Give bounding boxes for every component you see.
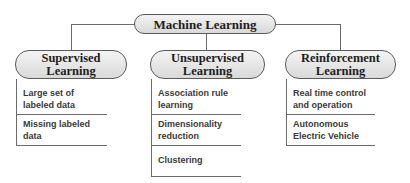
category-label-line2: Learning xyxy=(301,65,380,78)
category-unsupervised: Unsupervised Learning xyxy=(150,50,265,79)
list-item: Clustering xyxy=(152,146,241,177)
connector-root-right xyxy=(276,24,341,25)
unsupervised-list: Association rule learning Dimensionality… xyxy=(151,79,241,177)
connector-supervised-vertical xyxy=(71,24,72,50)
category-label-line1: Reinforcement xyxy=(301,52,380,65)
list-item: Large set of labeled data xyxy=(17,79,107,115)
ml-taxonomy-diagram: Machine Learning Supervised Learning Lar… xyxy=(0,0,410,183)
category-label-line2: Learning xyxy=(41,65,100,78)
root-label: Machine Learning xyxy=(154,18,257,31)
root-node: Machine Learning xyxy=(134,14,276,34)
list-item: Autonomous Electric Vehicle xyxy=(287,115,375,146)
supervised-list: Large set of labeled data Missing labele… xyxy=(16,79,107,146)
connector-reinforcement-vertical xyxy=(340,24,341,50)
category-label-line1: Unsupervised xyxy=(171,52,244,65)
category-label-line2: Learning xyxy=(171,65,244,78)
list-item: Real time control and operation xyxy=(287,79,375,115)
list-item: Association rule learning xyxy=(152,79,241,115)
connector-root-left xyxy=(71,24,134,25)
connector-unsupervised-vertical xyxy=(206,34,207,50)
category-reinforcement: Reinforcement Learning xyxy=(285,50,396,79)
category-supervised: Supervised Learning xyxy=(15,50,127,79)
list-item: Missing labeled data xyxy=(17,115,107,146)
category-label-line1: Supervised xyxy=(41,52,100,65)
list-item: Dimensionality reduction xyxy=(152,115,241,146)
reinforcement-list: Real time control and operation Autonomo… xyxy=(286,79,375,146)
